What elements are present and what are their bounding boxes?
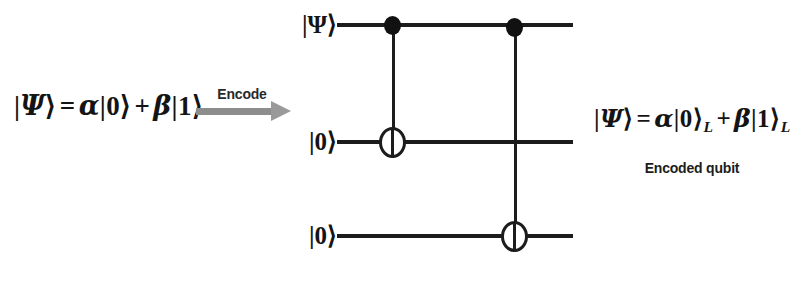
output-ket-close: ⟩ [623, 105, 633, 132]
cnot-1-control-dot[interactable] [384, 16, 401, 35]
input-state-equation: |Ψ⟩=α|0⟩+β|1⟩ [14, 90, 203, 122]
encode-arrow-head-icon [271, 101, 291, 121]
quantum-circuit-figure: |Ψ⟩=α|0⟩+β|1⟩ Encode |Ψ⟩ |0⟩ |0⟩ |Ψ⟩=α|0… [0, 0, 804, 287]
input-beta-symbol: β [153, 90, 171, 121]
output-ket-one-subscript: L [780, 118, 790, 135]
output-equals-sign: = [634, 105, 655, 132]
output-ket-one: |1⟩ [751, 105, 780, 132]
input-plus-sign: + [131, 91, 153, 121]
wire-qubit-2 [337, 234, 573, 238]
encode-arrow-shaft [196, 108, 274, 115]
cnot-1-target-xor-icon[interactable] [379, 127, 406, 158]
input-alpha-symbol: α [79, 90, 100, 121]
encode-arrow-label: Encode [196, 86, 288, 102]
input-equals-sign: = [57, 91, 79, 121]
cnot-1-connector-line [392, 25, 395, 142]
output-beta-symbol: β [734, 104, 751, 133]
output-psi-symbol: Ψ [600, 104, 623, 133]
wire-label-qubit-1: |0⟩ [287, 127, 337, 156]
wire-qubit-0 [337, 23, 573, 27]
wire-label-qubit-0: |Ψ⟩ [287, 10, 337, 39]
input-psi-symbol: Ψ [20, 90, 45, 121]
output-ket-zero: |0⟩ [674, 105, 703, 132]
input-ket-zero: |0⟩ [100, 91, 132, 121]
output-plus-sign: + [713, 105, 734, 132]
cnot-2-control-dot[interactable] [506, 18, 523, 37]
encoded-qubit-caption: Encoded qubit [612, 160, 772, 176]
input-ket-close: ⟩ [45, 91, 56, 121]
output-ket-zero-subscript: L [703, 118, 713, 135]
output-state-equation: |Ψ⟩=α|0⟩L+β|1⟩L [594, 104, 791, 136]
output-alpha-symbol: α [654, 104, 674, 133]
wire-label-qubit-2: |0⟩ [287, 221, 337, 250]
cnot-2-connector-line [514, 27, 517, 236]
cnot-2-target-xor-icon[interactable] [501, 221, 528, 252]
